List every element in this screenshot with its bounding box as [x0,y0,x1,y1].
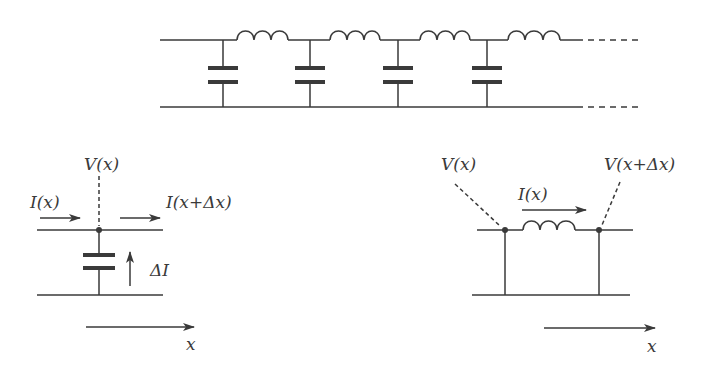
inductor-icon [330,31,380,40]
voltage-probe-dashed-right [602,182,620,225]
delta-current-label: ΔI [149,260,169,280]
inductor-icon [420,31,470,40]
capacitor-icon [472,40,502,107]
voltage-left-label: V(x) [441,154,476,174]
voltage-right-label: V(x+Δx) [604,154,675,174]
inductor-icon [237,31,288,40]
capacitor-icon [383,40,413,107]
node-dot [502,227,508,233]
node-dot [96,227,102,233]
x-axis-label: x [186,334,196,354]
top-ladder-network [160,31,640,107]
current-out-label: I(x+Δx) [165,192,232,212]
current-label: I(x) [517,184,548,204]
voltage-label: V(x) [84,154,119,174]
x-axis-label: x [647,336,657,356]
current-in-label: I(x) [29,192,60,212]
inductor-icon [523,221,575,230]
capacitor-icon [83,230,115,295]
inductor-section-detail [455,182,655,328]
transmission-line-diagram: V(x) I(x) I(x+Δx) ΔI x V(x) V(x+Δx) I(x)… [0,0,723,379]
inductor-icon [508,31,560,40]
voltage-probe-dashed-left [455,184,499,225]
capacitor-icon [208,40,238,107]
node-dot [596,227,602,233]
capacitor-icon [295,40,325,107]
